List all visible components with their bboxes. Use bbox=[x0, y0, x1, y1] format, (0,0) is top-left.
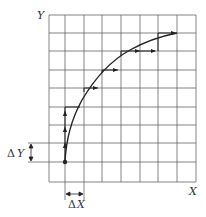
x-axis-label: X bbox=[188, 185, 198, 198]
delta-y-var: Y bbox=[17, 147, 26, 160]
extension-lines bbox=[28, 143, 84, 200]
delta-y-label: ΔY bbox=[7, 147, 26, 160]
start-point bbox=[63, 160, 67, 164]
delta-x-dimension bbox=[66, 192, 83, 196]
y-axis-label: Y bbox=[37, 9, 46, 22]
incremental-interpolation-diagram: Y X ΔY ΔX bbox=[0, 0, 206, 217]
step-arrowheads bbox=[63, 31, 177, 148]
delta-y-symbol: Δ bbox=[7, 147, 15, 160]
delta-x-symbol: Δ bbox=[68, 198, 76, 211]
delta-x-label: ΔX bbox=[68, 198, 86, 211]
delta-x-var: X bbox=[76, 198, 86, 211]
grid bbox=[49, 15, 196, 182]
delta-y-dimension bbox=[29, 144, 33, 161]
